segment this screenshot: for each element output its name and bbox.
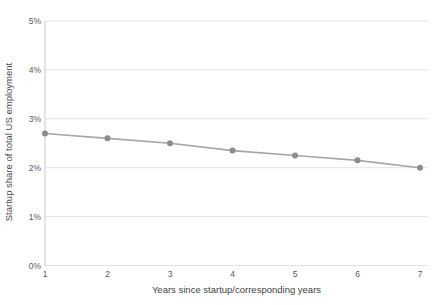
data-point-marker [417, 165, 423, 171]
y-axis-title: Startup share of total US employment [3, 32, 15, 252]
x-tick-label: 2 [105, 269, 110, 279]
x-tick-label: 6 [355, 269, 360, 279]
data-point-marker [355, 157, 361, 163]
data-point-marker [167, 140, 173, 146]
line-chart-canvas: 0%1%2%3%4%5%1234567 [0, 0, 438, 305]
y-tick-label: 1% [29, 212, 42, 222]
data-point-marker [292, 152, 298, 158]
data-point-marker [230, 148, 236, 154]
x-tick-label: 3 [168, 269, 173, 279]
data-point-marker [42, 130, 48, 136]
startup-employment-share-chart: 0%1%2%3%4%5%1234567 Startup share of tot… [0, 0, 438, 305]
y-tick-label: 2% [29, 163, 42, 173]
y-tick-label: 4% [29, 65, 42, 75]
y-tick-label: 5% [29, 16, 42, 26]
x-tick-label: 7 [418, 269, 423, 279]
x-tick-label: 1 [43, 269, 48, 279]
y-tick-label: 0% [29, 261, 42, 271]
x-tick-label: 5 [293, 269, 298, 279]
x-axis-title: Years since startup/corresponding years [35, 284, 438, 295]
y-tick-label: 3% [29, 114, 42, 124]
data-point-marker [105, 135, 111, 141]
x-tick-label: 4 [230, 269, 235, 279]
